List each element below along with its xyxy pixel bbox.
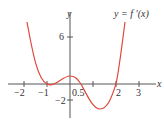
x-tick-label: 0.5 (72, 87, 85, 98)
x-tick-label: 2 (116, 87, 121, 98)
y-tick-label: 6 (59, 31, 64, 42)
y-tick-label: −2 (55, 95, 66, 106)
curve-label: y = f ′(x) (113, 8, 149, 20)
y-axis-label: y (66, 8, 72, 19)
x-axis-label: x (156, 78, 162, 89)
x-tick-label: −1 (38, 87, 49, 98)
x-tick-label: 3 (136, 87, 141, 98)
chart: −2 −1 0.5 2 3 6 −2 x y y = f ′(x) (0, 0, 164, 121)
x-tick-label: −2 (14, 87, 25, 98)
